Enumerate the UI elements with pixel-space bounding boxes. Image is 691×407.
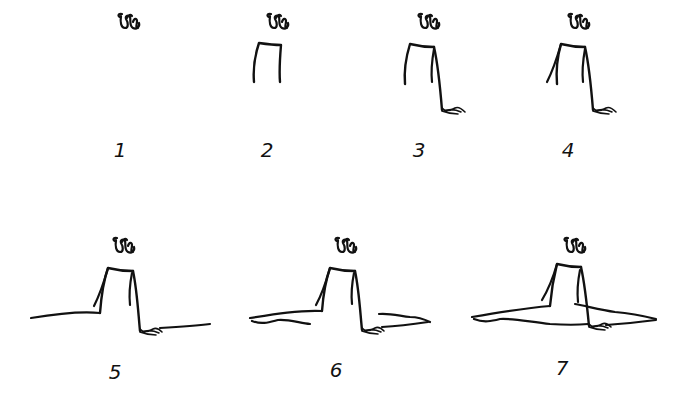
torso-stroke — [405, 44, 434, 84]
head-stroke — [118, 14, 139, 29]
head-stroke — [267, 14, 288, 29]
left-leg-bottom-stroke — [252, 320, 310, 324]
right-arm-stroke — [355, 271, 362, 330]
step-7-drawing — [472, 238, 656, 330]
right-leg-top-stroke — [382, 322, 428, 327]
right-leg-top-stroke — [160, 324, 210, 328]
right-hand-stroke — [442, 107, 465, 114]
right-leg-bottom-stroke — [606, 320, 656, 325]
step-1-drawing — [118, 14, 139, 29]
step-6-drawing — [250, 238, 430, 334]
left-leg-top-stroke — [250, 311, 322, 318]
torso-inner-stroke — [130, 273, 132, 305]
head-stroke — [564, 238, 585, 253]
torso-stroke — [557, 44, 585, 84]
step-label-7: 7 — [547, 358, 577, 378]
left-leg-bottom-stroke — [474, 319, 588, 325]
tutorial-canvas — [0, 0, 691, 407]
right-hand-stroke — [593, 107, 616, 114]
step-label-1: 1 — [105, 140, 135, 160]
right-leg-bottom-stroke — [379, 314, 430, 322]
torso-inner-stroke — [352, 273, 354, 304]
step-label-5: 5 — [100, 362, 130, 382]
step-label-2: 2 — [252, 140, 282, 160]
right-hand-stroke — [362, 327, 384, 334]
torso-inner-stroke — [583, 49, 585, 82]
left-arm-stroke — [542, 264, 557, 300]
step-2-drawing — [254, 14, 288, 82]
head-stroke — [335, 238, 356, 253]
right-arm-stroke — [133, 271, 140, 331]
step-4-drawing — [547, 14, 616, 114]
step-label-4: 4 — [553, 140, 583, 160]
step-label-3: 3 — [404, 140, 434, 160]
torso-inner-stroke — [432, 49, 434, 82]
step-label-6: 6 — [321, 360, 351, 380]
head-stroke — [568, 14, 589, 29]
right-arm-stroke — [434, 47, 442, 110]
left-leg-top-stroke — [31, 312, 100, 318]
torso-stroke — [254, 43, 281, 82]
left-leg-top-stroke — [472, 306, 550, 317]
right-arm-stroke — [585, 47, 593, 110]
step-5-drawing — [31, 238, 210, 335]
head-stroke — [418, 14, 439, 29]
step-3-drawing — [405, 14, 465, 114]
left-arm-stroke — [547, 44, 561, 82]
right-hand-stroke — [140, 328, 162, 335]
right-arm-stroke — [581, 267, 589, 326]
head-stroke — [113, 238, 134, 253]
torso-inner-stroke — [578, 270, 580, 302]
